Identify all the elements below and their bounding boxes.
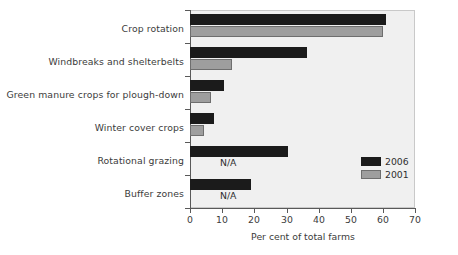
na-annotation: N/A <box>220 190 236 201</box>
x-axis-tick <box>254 209 255 213</box>
x-axis-label: 50 <box>345 214 357 225</box>
legend-label: 2006 <box>385 156 409 167</box>
category-group-green-manure-crops-for-plough-down: Green manure crops for plough-down <box>190 77 415 110</box>
bar-2006 <box>190 146 288 157</box>
x-axis-tick <box>351 209 352 213</box>
bar-2006 <box>190 14 386 25</box>
y-axis-tick <box>185 109 190 110</box>
category-group-crop-rotation: Crop rotation <box>190 11 415 44</box>
legend-item-2006: 2006 <box>361 155 409 168</box>
x-axis-label: 70 <box>409 214 421 225</box>
legend-swatch-icon <box>361 170 381 179</box>
na-annotation: N/A <box>220 157 236 168</box>
category-label: Windbreaks and shelterbelts <box>48 55 184 66</box>
x-axis-tick <box>190 209 191 213</box>
category-label: Rotational grazing <box>97 154 184 165</box>
y-axis-tick <box>185 175 190 176</box>
x-axis-title: Per cent of total farms <box>190 231 416 242</box>
category-label: Crop rotation <box>122 22 184 33</box>
bar-2001 <box>190 92 211 103</box>
y-axis-tick <box>185 76 190 77</box>
category-group-winter-cover-crops: Winter cover crops <box>190 110 415 143</box>
category-label: Green manure crops for plough-down <box>7 88 185 99</box>
x-axis-tick <box>415 209 416 213</box>
bar-2006 <box>190 113 214 124</box>
legend-label: 2001 <box>385 169 409 180</box>
bar-2006 <box>190 47 307 58</box>
y-axis-tick <box>185 10 190 11</box>
legend: 2006 2001 <box>361 155 409 181</box>
bar-2001 <box>190 125 204 136</box>
x-axis-label: 10 <box>216 214 228 225</box>
x-axis-label: 60 <box>377 214 389 225</box>
category-group-windbreaks-and-shelterbelts: Windbreaks and shelterbelts <box>190 44 415 77</box>
x-axis-tick <box>383 209 384 213</box>
bar-2001 <box>190 26 383 37</box>
x-axis-tick <box>222 209 223 213</box>
bar-2006 <box>190 179 251 190</box>
bar-chart: Crop rotation Windbreaks and shelterbelt… <box>0 0 458 255</box>
category-label: Buffer zones <box>124 187 184 198</box>
category-label: Winter cover crops <box>95 121 184 132</box>
legend-swatch-icon <box>361 157 381 166</box>
bar-2006 <box>190 80 224 91</box>
legend-item-2001: 2001 <box>361 168 409 181</box>
x-axis-tick <box>287 209 288 213</box>
bar-2001 <box>190 59 232 70</box>
x-axis-label: 0 <box>187 214 193 225</box>
x-axis-label: 40 <box>313 214 325 225</box>
x-axis-tick <box>319 209 320 213</box>
x-axis-label: 20 <box>248 214 260 225</box>
y-axis-tick <box>185 142 190 143</box>
y-axis-tick <box>185 43 190 44</box>
x-axis-label: 30 <box>281 214 293 225</box>
